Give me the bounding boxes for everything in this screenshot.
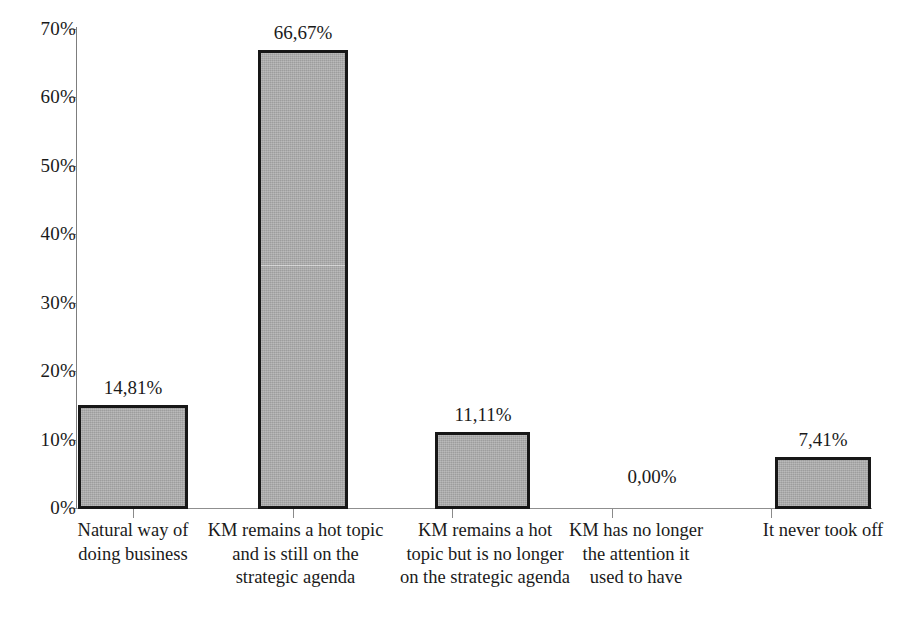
category-line: It never took off — [743, 519, 903, 543]
x-axis-category-label: Natural way of doing business — [53, 519, 213, 566]
x-axis-category-label: KM has no longer the attention it used t… — [552, 519, 720, 590]
bar-value-label: 7,41% — [763, 430, 883, 449]
bar-texture — [81, 408, 185, 506]
bar-value-label: 66,67% — [243, 23, 363, 42]
x-axis-tick — [133, 509, 134, 518]
bar-value-label: 11,11% — [423, 405, 543, 424]
category-line: Natural way of — [53, 519, 213, 543]
category-line: the attention it — [552, 543, 720, 567]
bar-value-label: 0,00% — [592, 467, 712, 486]
category-line: KM has no longer — [552, 519, 720, 543]
y-axis-tick-label: 40% — [14, 224, 76, 243]
y-axis-tick-label: 70% — [14, 19, 76, 38]
category-line: doing business — [53, 543, 213, 567]
x-axis-tick — [612, 509, 613, 518]
bar-value-label: 14,81% — [78, 378, 188, 397]
scan-artifact — [261, 265, 345, 266]
category-line: and is still on the — [207, 543, 384, 567]
bar-natural-way-of-doing-business — [78, 405, 188, 509]
y-axis-line — [76, 27, 77, 509]
bar-km-remains-hot-topic-no-longer-on-agenda — [435, 432, 530, 509]
y-axis-tick-label: 20% — [14, 361, 76, 380]
x-axis-tick — [293, 509, 294, 518]
y-axis-tick-label: 50% — [14, 156, 76, 175]
y-axis-tick-label: 10% — [14, 430, 76, 449]
bar-it-never-took-off — [775, 457, 871, 509]
category-line: strategic agenda — [207, 566, 384, 590]
category-line: used to have — [552, 566, 720, 590]
bar-chart: 70% 60% 50% 40% 30% 20% 10% 0% 14,81% — [0, 0, 919, 620]
bar-km-remains-hot-topic-still-on-agenda — [258, 50, 348, 509]
x-axis-category-label: It never took off — [743, 519, 903, 543]
x-axis-tick — [452, 509, 453, 518]
y-axis-tick-label: 60% — [14, 87, 76, 106]
y-axis-tick-label: 30% — [14, 293, 76, 312]
y-axis-tick-label: 0% — [14, 498, 76, 517]
bar-texture — [438, 435, 527, 506]
bar-texture — [261, 53, 345, 506]
x-axis-category-label: KM remains a hot topic and is still on t… — [207, 519, 384, 590]
category-line: KM remains a hot topic — [207, 519, 384, 543]
x-axis-tick — [771, 509, 772, 518]
bar-texture — [778, 460, 868, 506]
